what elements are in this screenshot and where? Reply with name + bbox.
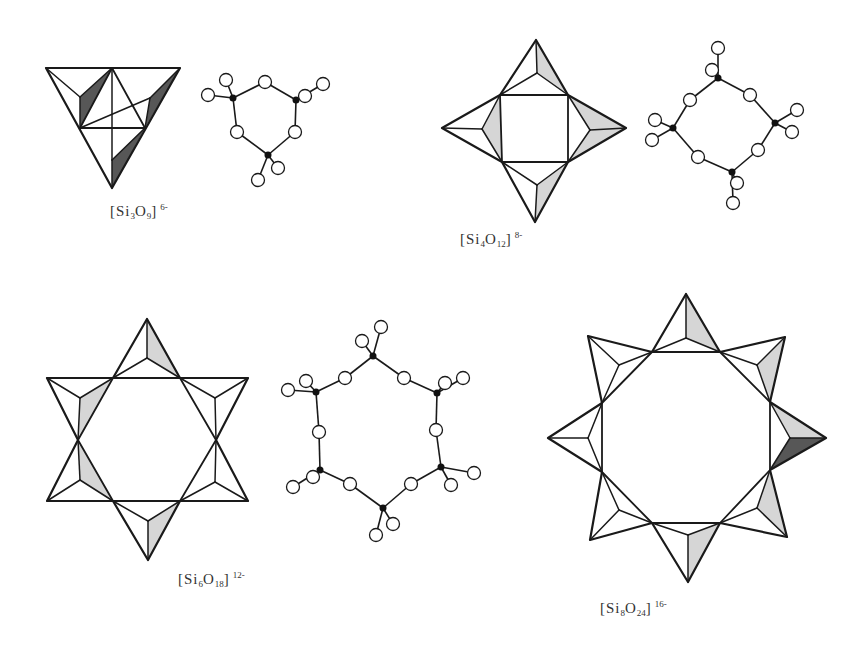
o-count: 18 bbox=[215, 579, 224, 589]
tetrahedron-edge bbox=[602, 365, 619, 403]
formula-prefix: [Si bbox=[178, 571, 199, 587]
bridging-oxygen-atom bbox=[684, 94, 697, 107]
silicon-atom bbox=[230, 95, 237, 102]
bridging-oxygen-atom bbox=[344, 478, 357, 491]
formula-label-si6o18: [Si6O18]12- bbox=[178, 570, 245, 589]
terminal-oxygen-atom bbox=[300, 375, 313, 388]
formula-label-si8o24: [Si8O24]16- bbox=[600, 599, 667, 618]
terminal-oxygen-atom bbox=[282, 384, 295, 397]
terminal-oxygen-atom bbox=[287, 481, 300, 494]
silicon-atom bbox=[438, 464, 445, 471]
terminal-oxygen-atom bbox=[712, 42, 725, 55]
bridging-oxygen-atom bbox=[231, 126, 244, 139]
terminal-oxygen-atom bbox=[387, 518, 400, 531]
silicon-atom bbox=[670, 125, 677, 132]
terminal-oxygen-atom bbox=[370, 529, 383, 542]
terminal-oxygen-atom bbox=[706, 64, 719, 77]
tetrahedron-edge bbox=[619, 352, 652, 365]
formula-label-si4o12: [Si4O12]8- bbox=[460, 230, 522, 249]
tetrahedron-edge bbox=[46, 68, 80, 97]
terminal-oxygen-atom bbox=[457, 372, 470, 385]
panel-si6o18-polyhedral bbox=[47, 319, 248, 560]
formula-oxygen: O bbox=[135, 203, 147, 219]
terminal-oxygen-atom bbox=[317, 78, 330, 91]
silicon-atom bbox=[380, 505, 387, 512]
bridging-oxygen-atom bbox=[405, 478, 418, 491]
tetrahedron-edge bbox=[619, 510, 652, 523]
charge: 12- bbox=[233, 570, 245, 580]
terminal-oxygen-atom bbox=[202, 89, 215, 102]
o-count: 24 bbox=[637, 608, 646, 618]
silicon-atom bbox=[729, 169, 736, 176]
bridging-oxygen-atom bbox=[313, 426, 326, 439]
formula-close: ] bbox=[506, 231, 512, 247]
panel-si4o12-ball-stick bbox=[646, 42, 804, 210]
tetrahedron-edge bbox=[720, 508, 757, 523]
terminal-oxygen-atom bbox=[468, 467, 481, 480]
formula-prefix: [Si bbox=[460, 231, 481, 247]
formula-close: ] bbox=[224, 571, 230, 587]
charge: 6- bbox=[160, 202, 168, 212]
ring-polygon bbox=[602, 352, 770, 523]
terminal-oxygen-atom bbox=[727, 197, 740, 210]
bridging-oxygen-atom bbox=[430, 424, 443, 437]
terminal-oxygen-atom bbox=[307, 471, 320, 484]
bridging-oxygen-atom bbox=[259, 76, 272, 89]
bridging-oxygen-atom bbox=[744, 89, 757, 102]
bridging-oxygen-atom bbox=[398, 372, 411, 385]
silicon-atom bbox=[434, 390, 441, 397]
tetrahedron-edge bbox=[602, 472, 619, 510]
formula-oxygen: O bbox=[625, 600, 637, 616]
formula-close: ] bbox=[151, 203, 157, 219]
terminal-oxygen-atom bbox=[356, 335, 369, 348]
terminal-oxygen-atom bbox=[445, 479, 458, 492]
panel-si6o18-ball-stick bbox=[282, 321, 481, 542]
formula-prefix: [Si bbox=[600, 600, 621, 616]
ring-polygon bbox=[500, 95, 568, 162]
terminal-oxygen-atom bbox=[252, 174, 265, 187]
terminal-oxygen-atom bbox=[299, 90, 312, 103]
terminal-oxygen-atom bbox=[731, 177, 744, 190]
tetrahedron-edge bbox=[536, 40, 537, 73]
panel-si4o12-polyhedral bbox=[442, 40, 626, 222]
charge: 8- bbox=[515, 230, 523, 240]
bridging-oxygen-atom bbox=[289, 126, 302, 139]
formula-oxygen: O bbox=[203, 571, 215, 587]
terminal-oxygen-atom bbox=[220, 74, 233, 87]
terminal-oxygen-atom bbox=[272, 162, 285, 175]
terminal-oxygen-atom bbox=[439, 377, 452, 390]
bridging-oxygen-atom bbox=[752, 144, 765, 157]
silicate-ring-diagram bbox=[0, 0, 866, 666]
silicon-atom bbox=[313, 389, 320, 396]
tetrahedron-edge bbox=[500, 73, 537, 95]
bridging-oxygen-atom bbox=[339, 372, 352, 385]
terminal-oxygen-atom bbox=[786, 126, 799, 139]
bridging-oxygen-atom bbox=[692, 151, 705, 164]
o-count: 12 bbox=[497, 239, 506, 249]
terminal-oxygen-atom bbox=[649, 114, 662, 127]
panel-si3o9-polyhedral bbox=[46, 68, 180, 188]
silicon-atom bbox=[370, 353, 377, 360]
charge: 16- bbox=[655, 599, 667, 609]
terminal-oxygen-atom bbox=[375, 321, 388, 334]
tetrahedron-edge bbox=[215, 398, 216, 440]
formula-close: ] bbox=[646, 600, 652, 616]
terminal-oxygen-atom bbox=[791, 104, 804, 117]
formula-oxygen: O bbox=[485, 231, 497, 247]
tetrahedron-edge bbox=[442, 128, 482, 129]
terminal-oxygen-atom bbox=[646, 134, 659, 147]
silicon-atom bbox=[265, 152, 272, 159]
panel-si3o9-ball-stick bbox=[202, 74, 330, 187]
tetrahedron-edge bbox=[215, 440, 216, 482]
silicon-atom bbox=[772, 120, 779, 127]
panel-si8o24-polyhedral bbox=[548, 294, 826, 582]
formula-prefix: [Si bbox=[110, 203, 131, 219]
formula-label-si3o9: [Si3O9]6- bbox=[110, 202, 168, 221]
